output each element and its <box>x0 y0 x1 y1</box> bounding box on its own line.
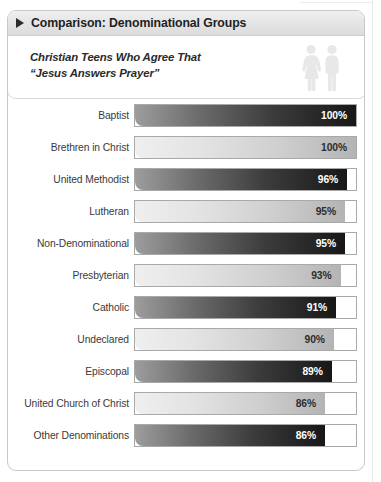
bar: 93% <box>135 265 341 286</box>
bar-value-label: 96% <box>318 174 347 185</box>
bar: 89% <box>135 361 332 382</box>
bar-label: Catholic <box>8 296 129 319</box>
chart-row: Presbyterian93% <box>8 264 364 287</box>
bar-value-label: 95% <box>316 238 345 249</box>
triangle-right-icon <box>16 18 24 28</box>
bar-track: 91% <box>134 296 357 319</box>
bar-label: Other Denominations <box>8 424 129 447</box>
bar-label: United Methodist <box>8 168 129 191</box>
bar-track: 100% <box>134 136 357 159</box>
bar: 86% <box>135 425 325 446</box>
bar: 95% <box>135 201 345 222</box>
bar-track: 95% <box>134 232 357 255</box>
bar-label: Non-Denominational <box>8 232 129 255</box>
bar: 86% <box>135 393 325 414</box>
card-header: Comparison: Denominational Groups <box>8 11 364 36</box>
bar-value-label: 100% <box>321 110 356 121</box>
two-people-icon <box>295 42 347 94</box>
subtitle-panel: Christian Teens Who Agree That “Jesus An… <box>7 36 365 99</box>
bar-label: United Church of Christ <box>8 392 129 415</box>
bar-value-label: 93% <box>311 270 340 281</box>
bar-label: Episcopal <box>8 360 129 383</box>
chart-row: United Church of Christ86% <box>8 392 364 415</box>
bar-label: Baptist <box>8 104 129 127</box>
page-edge <box>372 0 381 482</box>
chart-row: Non-Denominational95% <box>8 232 364 255</box>
bar-track: 90% <box>134 328 357 351</box>
bar-value-label: 90% <box>305 334 334 345</box>
bar-track: 96% <box>134 168 357 191</box>
chart-row: Other Denominations86% <box>8 424 364 447</box>
page-edge-top <box>300 0 372 3</box>
chart-row: Baptist100% <box>8 104 364 127</box>
bar-track: 93% <box>134 264 357 287</box>
bar-track: 86% <box>134 424 357 447</box>
bar-value-label: 91% <box>307 302 336 313</box>
bar: 90% <box>135 329 334 350</box>
chart-row: Episcopal89% <box>8 360 364 383</box>
bar-track: 89% <box>134 360 357 383</box>
bar-track: 86% <box>134 392 357 415</box>
bar-label: Undeclared <box>8 328 129 351</box>
chart-row: United Methodist96% <box>8 168 364 191</box>
chart-subtitle: Christian Teens Who Agree That “Jesus An… <box>30 50 201 81</box>
bar: 100% <box>135 137 356 158</box>
comparison-card: Comparison: Denominational Groups Christ… <box>7 10 365 471</box>
bar-track: 95% <box>134 200 357 223</box>
bar-value-label: 89% <box>302 366 331 377</box>
bar: 96% <box>135 169 347 190</box>
bar-value-label: 95% <box>316 206 345 217</box>
bar-value-label: 100% <box>321 142 356 153</box>
chart-row: Lutheran95% <box>8 200 364 223</box>
bar-label: Lutheran <box>8 200 129 223</box>
bar-value-label: 86% <box>296 430 325 441</box>
chart-row: Catholic91% <box>8 296 364 319</box>
bar: 100% <box>135 105 356 126</box>
bar-track: 100% <box>134 104 357 127</box>
bar: 95% <box>135 233 345 254</box>
chart-row: Brethren in Christ100% <box>8 136 364 159</box>
bar-value-label: 86% <box>296 398 325 409</box>
bar-label: Presbyterian <box>8 264 129 287</box>
bar: 91% <box>135 297 336 318</box>
chart-row: Undeclared90% <box>8 328 364 351</box>
bar-chart: Baptist100%Brethren in Christ100%United … <box>8 104 364 456</box>
bar-label: Brethren in Christ <box>8 136 129 159</box>
page-title: Comparison: Denominational Groups <box>31 16 246 30</box>
